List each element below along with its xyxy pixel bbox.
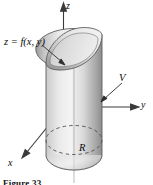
axis-label-y: y	[141, 100, 145, 110]
figure-caption: Figure 33	[3, 178, 41, 185]
volume-leader-line	[101, 83, 122, 102]
figure-container: z = f(x, y) z y x V R Figure 33	[0, 0, 153, 185]
volume-label: V	[119, 73, 125, 84]
region-label: R	[79, 143, 85, 154]
surface-function-label: z = f(x, y)	[4, 37, 45, 48]
figure-graphic	[0, 0, 153, 185]
base-front-edge	[46, 155, 102, 170]
axis-label-z: z	[66, 1, 70, 11]
axis-label-x: x	[8, 158, 12, 168]
